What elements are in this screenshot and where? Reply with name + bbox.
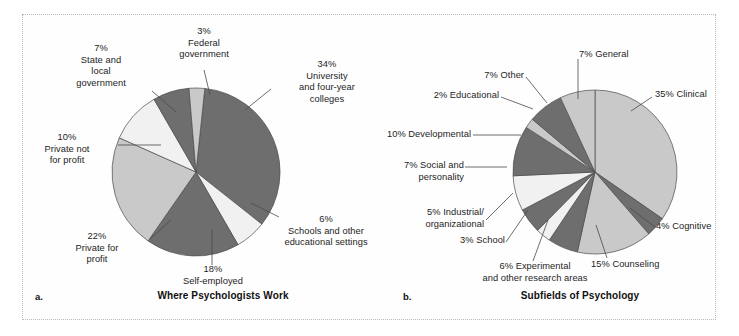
- label-clinical: 35% Clinical: [655, 89, 735, 101]
- leader-school: [506, 210, 528, 242]
- leader-educational: [501, 97, 533, 109]
- label-university-and-four-year-colleges: 34% University and four-year colleges: [268, 59, 386, 105]
- label-private-not-for-profit: 10% Private not for profit: [19, 132, 115, 167]
- caption-where-psychologists-work: Where Psychologists Work: [118, 290, 328, 301]
- label-social-and-personality: 7% Social and personality: [387, 160, 464, 183]
- label-self-employed: 18% Self-employed: [163, 264, 263, 287]
- label-cognitive: 4% Cognitive: [656, 221, 739, 233]
- label-school: 3% School: [415, 235, 505, 247]
- panel-letter-a: a.: [35, 291, 43, 302]
- label-developmental: 10% Developmental: [379, 129, 471, 141]
- panel-letter-b: b.: [403, 291, 411, 302]
- leader-other: [526, 77, 547, 103]
- panel-b-subfields-of-psychology: Clinical 35%Cognitive 4%Counseling 15%Ex…: [393, 15, 717, 319]
- label-schools-and-other-educational-settings: 6% Schools and other educational setting…: [263, 214, 389, 249]
- label-private-for-profit: 22% Private for profit: [45, 231, 149, 266]
- pie-b-slices: Clinical 35%Cognitive 4%Counseling 15%Ex…: [513, 90, 677, 254]
- figure-container: University and four-year colleges 34%Sch…: [22, 14, 716, 320]
- label-state-and-local-government: 7% State and local government: [53, 43, 149, 89]
- label-federal-government: 3% Federal government: [156, 26, 252, 61]
- label-educational: 2% Educational: [409, 90, 499, 102]
- label-industrial-organizational: 5% Industrial/ organizational: [393, 207, 484, 230]
- label-general: 7% General: [579, 49, 689, 61]
- label-other: 7% Other: [453, 70, 524, 82]
- caption-subfields-of-psychology: Subfields of Psychology: [485, 290, 675, 301]
- label-experimental-and-other-research-areas: 6% Experimental and other research areas: [445, 261, 625, 284]
- leader-industrial-organizational: [486, 193, 513, 220]
- panel-a-where-psychologists-work: University and four-year colleges 34%Sch…: [23, 15, 393, 319]
